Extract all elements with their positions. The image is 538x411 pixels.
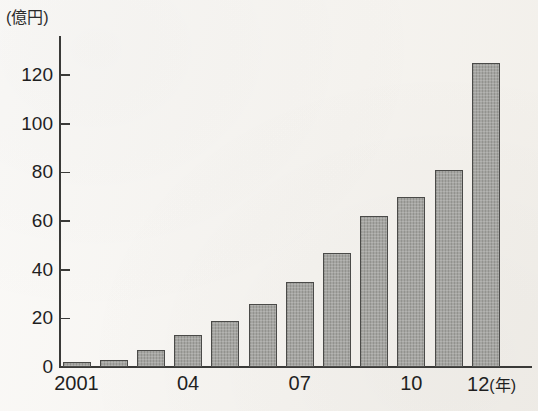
y-axis-tick-label: 120 xyxy=(7,64,53,86)
bar-2008 xyxy=(323,253,351,367)
bar-2006 xyxy=(249,304,277,367)
y-axis-tick-label: 40 xyxy=(7,259,53,281)
bars-layer xyxy=(59,36,532,367)
x-axis-tick-label: 2001 xyxy=(54,372,99,395)
x-axis-unit-label: (年) xyxy=(489,377,516,394)
y-axis-tick-label: 0 xyxy=(7,356,53,378)
x-axis-tick-label: 10 xyxy=(400,372,422,395)
bar-2010 xyxy=(397,197,425,367)
bar-2012 xyxy=(472,63,500,367)
y-axis-tick-label: 60 xyxy=(7,210,53,232)
bar-2004 xyxy=(174,335,202,367)
x-axis-tick-label: 07 xyxy=(289,372,311,395)
x-axis-tick-label: 12(年) xyxy=(467,372,516,396)
y-axis-unit-label: (億円) xyxy=(6,4,49,28)
y-axis-tick-label: 80 xyxy=(7,161,53,183)
bar-2009 xyxy=(360,216,388,367)
y-axis-tick-label: 100 xyxy=(7,113,53,135)
bar-2001 xyxy=(63,362,91,367)
bar-2007 xyxy=(286,282,314,367)
plot-area xyxy=(59,36,530,367)
x-axis-tick-label: 04 xyxy=(177,372,199,395)
bar-2003 xyxy=(137,350,165,367)
bar-2005 xyxy=(211,321,239,367)
bar-2002 xyxy=(100,360,128,367)
bar-2011 xyxy=(435,170,463,367)
y-axis-tick-label: 20 xyxy=(7,307,53,329)
bar-chart-figure: (億円) 204060801001200 200104071012(年) xyxy=(0,0,538,411)
